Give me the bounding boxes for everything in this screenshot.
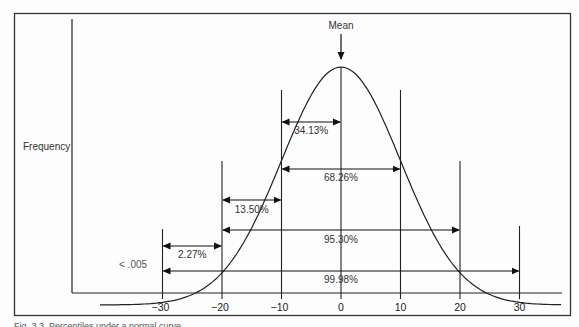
x-tick-label: 30: [514, 301, 526, 313]
mean-label: Mean: [328, 20, 353, 31]
figure-caption: Fig. 3.3. Percentiles under a normal cur…: [14, 319, 181, 327]
tail-label: < .005: [119, 259, 148, 270]
interval-percentage-label: 95.30%: [324, 234, 358, 245]
x-tick-label: −30: [152, 301, 170, 313]
interval-percentage-label: 2.27%: [178, 249, 206, 260]
x-tick-label: −10: [271, 301, 289, 313]
sd-lines: [163, 67, 520, 299]
interval-percentage-label: 99.98%: [324, 274, 358, 285]
figure-frame: [15, 14, 571, 316]
interval-percentage-label: 34.13%: [294, 125, 328, 136]
x-tick-label: 10: [395, 301, 407, 313]
normal-curve: [100, 67, 561, 305]
interval-percentage-label: 13.50%: [235, 204, 269, 215]
normal-curve-diagram: Frequency Mean −30−20−100102030 34.13%68…: [0, 0, 579, 327]
x-tick-labels: −30−20−100102030: [152, 301, 526, 313]
x-tick-label: 20: [454, 301, 466, 313]
x-tick-label: 0: [338, 301, 344, 313]
bell-curve: [100, 67, 561, 305]
x-tick-label: −20: [211, 301, 229, 313]
y-axis-label: Frequency: [23, 141, 70, 152]
interval-percentage-label: 68.26%: [324, 172, 358, 183]
